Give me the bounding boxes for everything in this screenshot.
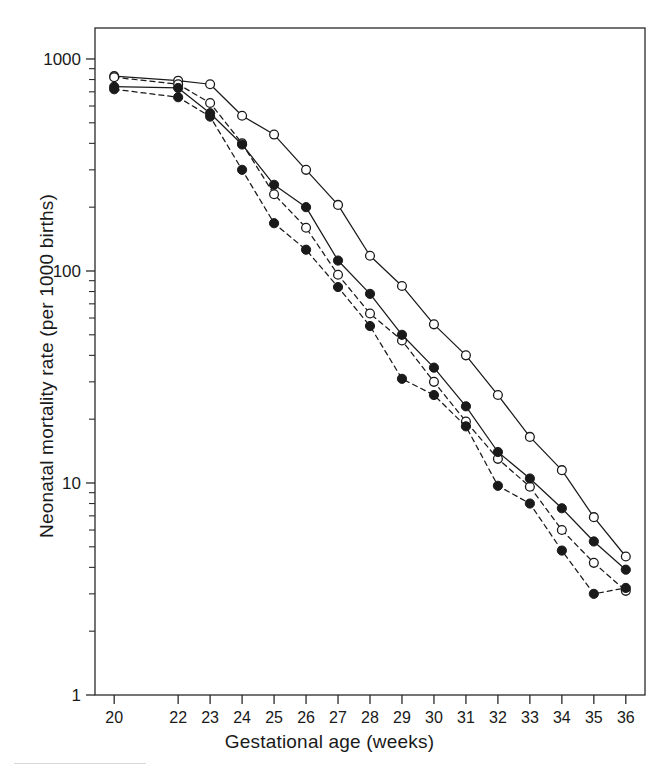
data-point-filled (174, 93, 183, 102)
data-point-open (557, 526, 566, 535)
data-point-filled (174, 83, 183, 92)
y-axis-title: Neonatal mortality rate (per 1000 births… (36, 136, 58, 596)
data-point-open (206, 80, 215, 89)
data-point-filled (333, 256, 342, 265)
data-point-open (430, 377, 439, 386)
data-point-filled (110, 85, 119, 94)
y-tick-label: 1 (72, 686, 81, 705)
data-point-filled (237, 165, 246, 174)
x-tick-label: 34 (553, 709, 571, 726)
x-tick-label: 24 (233, 709, 251, 726)
data-point-filled (557, 546, 566, 555)
x-axis-title: Gestational age (weeks) (0, 731, 659, 753)
plot-frame (95, 28, 645, 695)
data-point-open (621, 552, 630, 561)
data-point-filled (621, 565, 630, 574)
data-point-filled (589, 589, 598, 598)
data-point-open (334, 270, 343, 279)
data-point-filled (429, 390, 438, 399)
x-tick-label: 29 (393, 709, 411, 726)
neonatal-mortality-log-chart: 1101001000202223242526272829303132333435… (0, 0, 659, 771)
data-point-open (366, 251, 375, 260)
data-point-filled (397, 374, 406, 383)
x-tick-label: 33 (521, 709, 539, 726)
figure: 1101001000202223242526272829303132333435… (0, 0, 659, 771)
y-tick-label: 1000 (43, 50, 81, 69)
data-point-filled (206, 112, 215, 121)
data-point-open (110, 73, 119, 82)
data-point-open (525, 432, 534, 441)
series-line-series-2-open-dashed (114, 77, 626, 591)
data-point-filled (557, 504, 566, 513)
data-point-filled (397, 330, 406, 339)
data-point-open (270, 130, 279, 139)
x-tick-label: 28 (361, 709, 379, 726)
data-point-filled (589, 537, 598, 546)
y-tick-label: 10 (62, 474, 81, 493)
data-point-open (270, 190, 279, 199)
data-point-filled (269, 219, 278, 228)
x-tick-label: 23 (201, 709, 219, 726)
footer-rule (14, 763, 146, 764)
data-point-open (334, 200, 343, 209)
data-point-filled (237, 140, 246, 149)
x-tick-label: 22 (169, 709, 187, 726)
data-point-open (302, 223, 311, 232)
data-point-open (366, 309, 375, 318)
data-point-filled (461, 422, 470, 431)
data-point-open (557, 466, 566, 475)
x-tick-label: 31 (457, 709, 475, 726)
x-tick-label: 30 (425, 709, 443, 726)
data-point-open (525, 482, 534, 491)
data-point-open (206, 99, 215, 108)
data-point-filled (621, 583, 630, 592)
data-point-filled (365, 289, 374, 298)
x-tick-label: 20 (105, 709, 123, 726)
data-point-open (589, 558, 598, 567)
x-tick-label: 27 (329, 709, 347, 726)
x-tick-label: 36 (617, 709, 635, 726)
data-point-filled (269, 180, 278, 189)
x-tick-label: 35 (585, 709, 603, 726)
data-point-open (238, 111, 247, 120)
data-point-open (589, 513, 598, 522)
data-point-filled (461, 402, 470, 411)
data-point-filled (301, 203, 310, 212)
data-point-open (302, 165, 311, 174)
data-point-open (398, 282, 407, 291)
data-point-filled (365, 321, 374, 330)
x-tick-label: 25 (265, 709, 283, 726)
data-point-open (462, 351, 471, 360)
x-tick-label: 26 (297, 709, 315, 726)
data-point-filled (301, 245, 310, 254)
series-line-series-4-filled-dashed (114, 89, 626, 594)
data-point-filled (333, 282, 342, 291)
data-point-filled (493, 481, 502, 490)
data-point-filled (525, 474, 534, 483)
data-point-filled (525, 499, 534, 508)
x-tick-label: 32 (489, 709, 507, 726)
data-point-open (494, 391, 503, 400)
data-point-filled (429, 363, 438, 372)
data-point-open (430, 320, 439, 329)
data-point-filled (493, 447, 502, 456)
